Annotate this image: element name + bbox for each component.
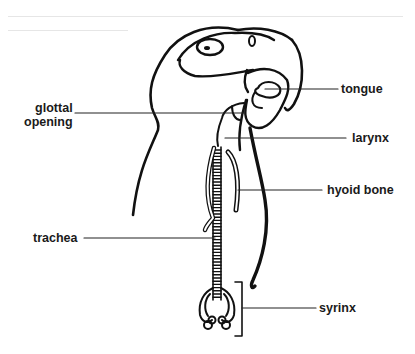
label-glottal-line1: glottal bbox=[24, 101, 73, 115]
label-glottal-line2: opening bbox=[24, 115, 73, 129]
pupil bbox=[204, 46, 210, 50]
label-hyoid-bone: hyoid bone bbox=[327, 183, 394, 197]
label-larynx: larynx bbox=[352, 131, 389, 145]
throat-front bbox=[239, 100, 246, 150]
tongue-shape bbox=[255, 82, 280, 98]
crown-outline bbox=[238, 28, 292, 40]
body-front-outline bbox=[250, 128, 267, 288]
trachea-rings bbox=[213, 150, 221, 297]
label-syrinx: syrinx bbox=[319, 301, 356, 315]
syrinx-bracket bbox=[235, 282, 242, 336]
lower-beak bbox=[245, 69, 289, 128]
nostril bbox=[249, 36, 255, 46]
head-outline bbox=[133, 28, 238, 215]
eye bbox=[197, 39, 223, 55]
upper-beak bbox=[285, 40, 302, 110]
label-trachea: trachea bbox=[33, 231, 77, 245]
diagram-canvas: glottal opening tongue larynx hyoid bone… bbox=[0, 0, 415, 354]
label-tongue: tongue bbox=[341, 82, 383, 96]
label-glottal-opening: glottal opening bbox=[24, 101, 73, 129]
